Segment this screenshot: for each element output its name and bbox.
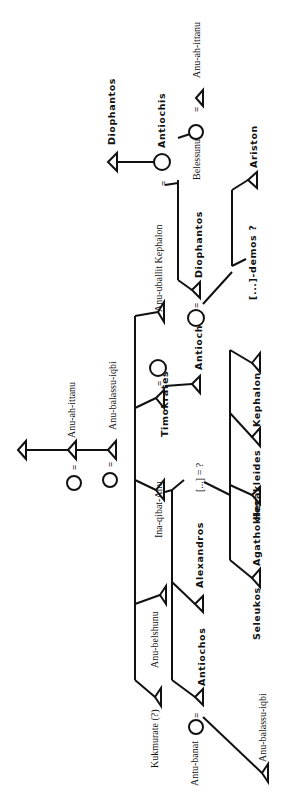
male-symbol-icon [248, 172, 257, 188]
female-symbol-icon [103, 473, 117, 487]
male-symbol-icon [160, 586, 166, 604]
label-anu-belshunu: Anu-belshunu [149, 611, 160, 668]
male-symbol-icon [108, 441, 116, 459]
label-kephalon: Kephalon [251, 372, 262, 427]
male-symbol-icon [192, 376, 200, 393]
generation-spine-2: Alexandros Antiochos [...] = ? [165, 462, 207, 705]
label-antu-banat: Antu-banat [189, 741, 200, 786]
label-ariston: Ariston [248, 125, 259, 168]
male-symbol-icon [155, 688, 161, 706]
male-symbol-icon [252, 569, 260, 587]
label-ina-qibat-anu: Ina-qibat-Anu [153, 481, 164, 538]
label-anu-ah-ittanu-2: Anu-ah-ittanu [191, 22, 202, 78]
label-anu-uballit-kephalon: Anu-uballit Kephalon [153, 225, 164, 312]
label-belessunu: Belessunu [191, 139, 202, 180]
label-timokrates: Timokrates [159, 371, 170, 437]
label-seleukos: Seleukos [251, 587, 262, 640]
female-symbol-icon [154, 154, 170, 170]
label-demos: [...]-demos ? [247, 225, 258, 300]
kinship-diagram: = = Anu-ah-ittanu Anu-balassu-iqbi Timok… [0, 0, 284, 810]
label-alexandros: Alexandros [194, 522, 205, 588]
svg-text:=: = [191, 107, 201, 112]
label-anu-balassu-iqbi-2: Anu-balassu-iqbi [257, 693, 268, 762]
svg-text:=: = [154, 381, 164, 386]
male-symbol-icon [262, 764, 268, 782]
male-symbol-icon [108, 153, 117, 171]
male-symbol-icon [192, 282, 200, 298]
label-antiochos: Antiochos [196, 628, 207, 686]
female-symbol-icon [150, 360, 166, 376]
male-symbol-icon [196, 90, 203, 106]
female-symbol-icon [189, 720, 203, 734]
label-anu-ah-ittanu: Anu-ah-ittanu [66, 382, 77, 438]
male-symbol-icon [252, 428, 260, 446]
female-symbol-icon [188, 310, 204, 326]
svg-text:=: = [191, 713, 201, 718]
male-symbol-icon [252, 353, 260, 372]
label-agathokles: Agathokles [251, 500, 262, 566]
female-symbol-icon [189, 125, 203, 139]
label-anu-balassu-iqbi: Anu-balassu-iqbi [107, 361, 118, 430]
svg-text:=: = [191, 303, 201, 308]
female-symbol-icon [67, 476, 81, 490]
male-symbol-icon [68, 441, 76, 459]
label-diophantos-2: Diophantos [106, 78, 117, 145]
ancestor-line: = = Anu-ah-ittanu Anu-balassu-iqbi [18, 361, 118, 490]
male-symbol-icon [195, 689, 203, 705]
label-diophantos: Diophantos [193, 211, 204, 278]
svg-text:=: = [105, 462, 115, 467]
male-symbol-icon [195, 596, 203, 612]
generation-spine-3: Kephalon Herakleides Agathokles Seleukos [204, 350, 262, 640]
label-unknown: [...] = ? [194, 462, 205, 492]
antiochos-family: = Antu-banat Anu-balassu-iqbi [189, 693, 268, 786]
male-symbol-icon [18, 441, 26, 459]
label-antiochis: Antiochis [156, 93, 167, 148]
label-kukmurate: Kukmurate (?) [149, 709, 161, 768]
svg-text:=: = [69, 465, 79, 470]
kephalon-branch: Anu-uballit Kephalon Diophantos = Beless… [106, 22, 204, 312]
